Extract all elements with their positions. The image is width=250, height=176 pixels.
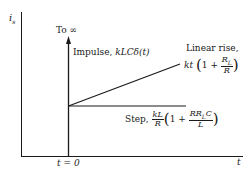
linear-rise-coef: kt [184,60,193,70]
impulse-label-text: Impulse, [73,47,115,57]
paren-close: ) [233,56,239,74]
step-one-plus: 1 + [170,114,186,124]
step-coef-fraction: kL R [152,111,164,129]
linear-rise-title: Linear rise, [186,44,239,53]
y-axis-label: is [9,13,15,25]
linear-rise-formula: kt (1 + RL R ) [184,56,239,75]
linear-rise-line [69,64,181,106]
linear-rise-one-plus: 1 + [202,60,218,70]
step-fraction: RRLC L [189,110,213,129]
linear-rise-fraction: RL R [221,56,233,75]
diagram-canvas [0,0,250,176]
step-coef-denominator: R [155,120,161,128]
y-axis-label-sub: s [12,18,15,25]
step-formula: Step, kL R (1 + RRLC L ) [125,110,219,129]
fraction-numerator: RR [190,109,202,118]
impulse-label: Impulse, kLCδ(t) [73,48,150,57]
fraction-numerator-sub: L [228,59,232,66]
impulse-label-math: kLCδ(t) [115,47,149,57]
x-axis-label: t [237,158,241,167]
fraction-denominator: R [224,67,230,75]
fraction-numerator-tail: C [206,109,212,118]
paren-close: ) [213,110,219,128]
impulse-top-label: To ∞ [56,26,77,35]
step-label-text: Step, [125,114,152,124]
fraction-denominator: L [198,121,203,129]
impulse-arrow-icon [66,36,71,44]
origin-label: t = 0 [57,159,80,168]
